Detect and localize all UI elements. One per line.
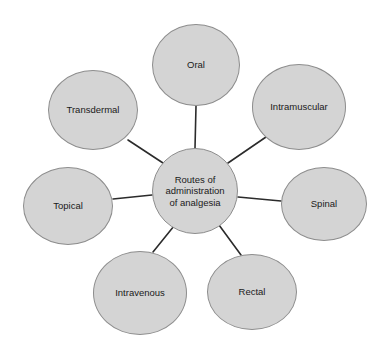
center-node-label: Routes of administration of analgesia (161, 174, 228, 209)
node-label-oral: Oral (183, 59, 209, 70)
node-rectal[interactable]: Rectal (207, 254, 297, 330)
connector-center-to-transdermal (128, 140, 163, 163)
connector-center-to-oral (195, 106, 196, 148)
node-topical[interactable]: Topical (23, 167, 113, 245)
node-oral[interactable]: Oral (152, 24, 240, 106)
connector-center-to-intramuscular (228, 137, 266, 163)
node-label-spinal: Spinal (307, 198, 341, 209)
node-label-rectal: Rectal (235, 286, 270, 297)
node-spinal[interactable]: Spinal (281, 167, 367, 241)
connector-center-to-rectal (219, 225, 241, 255)
node-label-intramuscular: Intramuscular (266, 101, 332, 112)
node-intravenous[interactable]: Intravenous (93, 251, 187, 335)
node-label-topical: Topical (49, 200, 87, 211)
center-node-routes-of-administration-of-analgesia[interactable]: Routes of administration of analgesia (152, 148, 238, 234)
node-transdermal[interactable]: Transdermal (48, 70, 138, 150)
node-label-transdermal: Transdermal (63, 104, 124, 115)
diagram-canvas: Routes of administration of analgesiaOra… (0, 0, 386, 344)
node-label-intravenous: Intravenous (111, 287, 169, 298)
connector-center-to-spinal (238, 197, 281, 201)
node-intramuscular[interactable]: Intramuscular (252, 64, 346, 150)
connector-center-to-intravenous (153, 226, 174, 252)
connector-center-to-topical (113, 195, 152, 199)
